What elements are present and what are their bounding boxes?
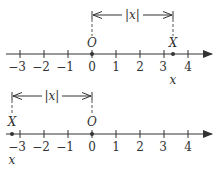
bottom-origin-label: O [87, 115, 97, 129]
svg-text:4: 4 [184, 140, 192, 154]
top-point-value-label: x [170, 73, 177, 87]
top-abs-x-label: |x| [125, 8, 140, 22]
bottom-abs-x-label: |x| [45, 89, 60, 103]
svg-text:1: 1 [112, 60, 120, 74]
top-point-label: X [168, 36, 178, 50]
svg-text:2: 2 [136, 60, 144, 74]
bottom-distance-bracket: |x| [12, 89, 92, 103]
bottom-number-line: |x| X O −3 −2 −1 0 1 2 3 4 x [6, 89, 212, 167]
top-number-line: |x| O X −3 −2 −1 0 1 2 3 4 [6, 8, 212, 87]
top-tick-labels: −3 −2 −1 0 1 2 3 4 [8, 60, 192, 74]
svg-text:2: 2 [136, 140, 144, 154]
svg-text:1: 1 [112, 140, 120, 154]
svg-text:−2: −2 [32, 140, 50, 154]
bottom-point-label: X [7, 115, 17, 129]
bottom-origin-dot [90, 132, 94, 136]
svg-text:−2: −2 [32, 60, 50, 74]
svg-text:3: 3 [159, 140, 167, 154]
top-point-dot [171, 52, 175, 56]
top-origin-label: O [87, 36, 97, 50]
svg-text:0: 0 [88, 140, 96, 154]
svg-text:−1: −1 [56, 60, 74, 74]
svg-text:3: 3 [159, 60, 167, 74]
bottom-point-dot [10, 132, 14, 136]
bottom-point-value-label: x [9, 153, 16, 167]
svg-text:−3: −3 [8, 60, 26, 74]
number-line-diagram: |x| O X −3 −2 −1 0 1 2 3 4 [0, 0, 224, 170]
svg-text:0: 0 [88, 60, 96, 74]
svg-text:−3: −3 [8, 140, 26, 154]
svg-text:4: 4 [184, 60, 192, 74]
bottom-tick-labels: −3 −2 −1 0 1 2 3 4 [8, 140, 192, 154]
svg-text:−1: −1 [56, 140, 74, 154]
top-distance-bracket: |x| [92, 8, 173, 22]
top-origin-dot [90, 52, 94, 56]
